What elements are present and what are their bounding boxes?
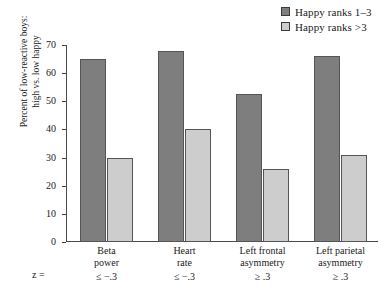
y-tick-label: 60 bbox=[46, 68, 56, 78]
y-tick-label: 30 bbox=[46, 153, 56, 163]
x-group-label: Left parietalasymmetry≥ .3 bbox=[292, 245, 389, 283]
y-axis-title-line1: Percent of low-reactive boys: bbox=[19, 16, 29, 128]
chart-legend: Happy ranks 1–3 Happy ranks >3 bbox=[281, 4, 372, 34]
x-axis-labels: Betapower≤ −.3Heartrate≤ −.3Left frontal… bbox=[66, 245, 378, 292]
bar-dark bbox=[236, 94, 262, 242]
bar-group bbox=[236, 45, 289, 242]
bar-light bbox=[341, 155, 367, 242]
y-tick-label: 70 bbox=[46, 40, 56, 50]
y-tick-label: 50 bbox=[46, 96, 56, 106]
z-prefix-label: z = bbox=[32, 269, 45, 281]
bar-group bbox=[314, 45, 367, 242]
bar-dark bbox=[80, 59, 106, 242]
y-tick bbox=[62, 45, 66, 46]
y-tick bbox=[62, 73, 66, 74]
y-tick-label: 20 bbox=[46, 181, 56, 191]
x-group-line2: asymmetry bbox=[292, 257, 389, 269]
legend-label-happy-ranks-1-3: Happy ranks 1–3 bbox=[295, 6, 372, 18]
y-tick-label: 0 bbox=[51, 237, 56, 247]
y-tick-label: 40 bbox=[46, 124, 56, 134]
bar-light bbox=[107, 158, 133, 242]
y-tick bbox=[62, 186, 66, 187]
legend-swatch-dark bbox=[281, 7, 290, 16]
legend-swatch-light bbox=[281, 22, 290, 31]
bar-group bbox=[80, 45, 133, 242]
y-tick bbox=[62, 242, 66, 243]
bar-dark bbox=[158, 51, 184, 242]
x-group-line1: Left parietal bbox=[292, 245, 389, 257]
x-group-zvalue: ≥ .3 bbox=[292, 271, 389, 283]
y-axis-title-line2: high vs. low happy bbox=[31, 35, 41, 107]
bar-light bbox=[185, 129, 211, 242]
y-axis-title: Percent of low-reactive boys: high vs. l… bbox=[19, 0, 42, 164]
plot-area: 010203040506070 bbox=[66, 45, 378, 242]
legend-label-happy-ranks-gt-3: Happy ranks >3 bbox=[295, 21, 367, 33]
legend-item-happy-ranks-1-3: Happy ranks 1–3 bbox=[281, 4, 372, 19]
bar-dark bbox=[314, 56, 340, 242]
y-tick bbox=[62, 214, 66, 215]
bar-light bbox=[263, 169, 289, 242]
y-tick bbox=[62, 101, 66, 102]
y-tick-label: 10 bbox=[46, 209, 56, 219]
y-tick bbox=[62, 129, 66, 130]
legend-item-happy-ranks-gt-3: Happy ranks >3 bbox=[281, 19, 372, 34]
bar-group bbox=[158, 45, 211, 242]
y-axis-line bbox=[66, 45, 67, 242]
y-tick bbox=[62, 158, 66, 159]
bar-chart: Happy ranks 1–3 Happy ranks >3 Percent o… bbox=[0, 0, 392, 292]
